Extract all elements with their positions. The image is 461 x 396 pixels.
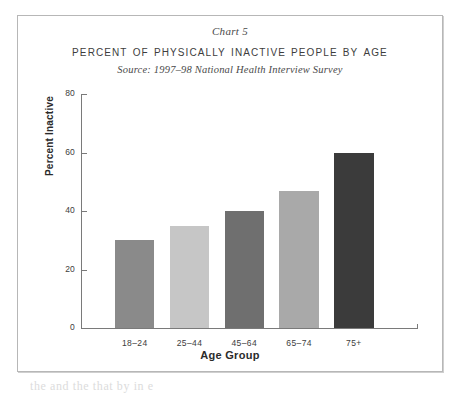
x-axis-category-label: 18–24 <box>115 338 154 348</box>
bar[interactable] <box>225 211 264 328</box>
bar-series: 18–2425–4445–6465–7475+ <box>81 94 418 328</box>
bar[interactable] <box>279 191 318 328</box>
chart-header: Chart 5 Percent of Physically Inactive P… <box>18 24 442 77</box>
bar-group[interactable]: 75+ <box>334 94 373 328</box>
y-axis-tick-label: 0 <box>70 322 75 332</box>
y-axis-tick-label: 60 <box>65 147 75 157</box>
x-axis-line <box>81 328 418 329</box>
plot-area: 020406080 18–2425–4445–6465–7475+ <box>81 94 418 329</box>
x-axis-category-label: 65–74 <box>279 338 318 348</box>
y-axis-tick-label: 40 <box>65 205 75 215</box>
y-axis-title: Percent Inactive <box>44 96 55 176</box>
chart-number-label: Chart 5 <box>18 24 442 39</box>
bar-group[interactable]: 45–64 <box>225 94 264 328</box>
x-axis-category-label: 45–64 <box>225 338 264 348</box>
chart-source-label: Source: 1997–98 National Health Intervie… <box>18 62 442 77</box>
bar[interactable] <box>115 240 154 328</box>
y-axis-tick: 0 <box>81 328 87 329</box>
page-title: Percent of Physically Inactive People by… <box>18 41 442 61</box>
bar[interactable] <box>334 153 373 329</box>
y-axis-tick-label: 80 <box>65 88 75 98</box>
bar-group[interactable]: 65–74 <box>279 94 318 328</box>
bar[interactable] <box>170 226 209 328</box>
bar-group[interactable]: 25–44 <box>170 94 209 328</box>
x-axis-title: Age Group <box>18 349 442 361</box>
chart-figure: Chart 5 Percent of Physically Inactive P… <box>17 15 443 372</box>
y-axis-tick-label: 20 <box>65 264 75 274</box>
bar-group[interactable]: 18–24 <box>115 94 154 328</box>
caption-sliver: the and the that by in e <box>30 379 430 395</box>
x-axis-category-label: 75+ <box>334 338 373 348</box>
x-axis-category-label: 25–44 <box>170 338 209 348</box>
